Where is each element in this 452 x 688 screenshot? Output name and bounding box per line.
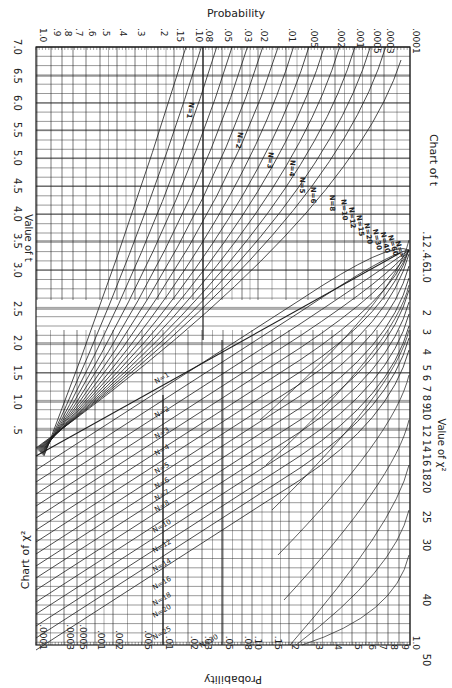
probability-tick-top: .01 (287, 28, 297, 42)
probability-tick-bottom: .8 (389, 641, 399, 650)
probability-tick-top: .05 (223, 28, 233, 42)
chi-value-tick: 1.0 (421, 267, 432, 283)
chi-value-tick: 6 (421, 375, 432, 381)
bottom-axis-title: Probability (203, 673, 262, 686)
t-value-tick: 4.5 (12, 178, 23, 194)
probability-tick-bottom: .3 (314, 641, 324, 650)
chi-value-tick: 30 (421, 539, 432, 552)
t-curve (43, 47, 201, 455)
chi-curve-label: N=14 (151, 557, 173, 574)
probability-tick-bottom: .15 (273, 636, 283, 650)
t-value-tick: .5 (12, 425, 23, 435)
chi-value-tick: 20 (421, 481, 432, 494)
probability-tick-top: .8 (63, 28, 73, 37)
probability-tick-top: .5 (101, 28, 111, 37)
t-value-tick: 3.5 (12, 233, 23, 249)
chi-value-tick: 25 (421, 511, 432, 524)
probability-tick-bottom: .7 (378, 641, 388, 650)
probability-tick-top: .15 (175, 28, 185, 42)
probability-tick-bottom: .01 (164, 636, 174, 650)
chi-value-tick: 16 (421, 454, 432, 467)
left-axis-title: Value of t (23, 214, 34, 261)
t-value-tick: 6.0 (12, 95, 23, 111)
probability-tick-top: .6 (87, 28, 97, 37)
chi-curve-upper (260, 240, 409, 420)
chi-value-tick: 7 (421, 386, 432, 392)
boundary-diagonal (36, 253, 400, 456)
probability-tick-bottom: .2 (290, 641, 300, 650)
chi-curve-label: N=6 (153, 476, 171, 491)
t-curve (42, 47, 232, 454)
probability-tick-top: .10 (194, 28, 204, 43)
chi-curve-upper (302, 555, 409, 645)
t-value-tick: 2.5 (12, 301, 23, 317)
t-curve (42, 47, 248, 454)
chi-value-tick: 4 (421, 349, 432, 355)
probability-tick-bottom: .005 (143, 630, 153, 650)
right-axis-title: Value of χ² (436, 418, 447, 471)
chi-value-tick: 3 (421, 329, 432, 335)
probability-tick-bottom: .9 (400, 641, 410, 650)
t-value-tick: 3.0 (12, 262, 23, 278)
chi-curve-label: N=2 (153, 405, 170, 420)
t-curve (36, 60, 401, 448)
probability-tick-bottom: .08 (243, 636, 253, 651)
probability-tick-bottom: .10 (253, 636, 263, 651)
probability-tick-bottom: .6 (367, 641, 377, 650)
t-value-tick: 2.0 (12, 335, 23, 351)
t-curve (39, 47, 324, 451)
t-curve-label: N=2 (234, 131, 244, 149)
t-curve (41, 47, 263, 453)
t-value-tick: 7.0 (12, 39, 23, 55)
probability-tick-top: .0003 (385, 28, 395, 54)
nomograph-chart: 1.01.0.9.9.8.8.7.7.6.6.5.5.4.4.3.3.2.2.1… (0, 0, 452, 688)
probability-tick-bottom: .5 (353, 641, 363, 650)
probability-tick-bottom: .4 (333, 641, 343, 650)
t-curve-label: N=6 (309, 187, 317, 204)
chi-value-tick: 18 (421, 468, 432, 481)
probability-tick-top: .4 (118, 28, 128, 37)
probability-tick-bottom: .002 (114, 630, 124, 650)
probability-tick-top: .08 (204, 28, 214, 43)
t-curve (37, 47, 370, 449)
chart-of-chi-title: Chart of χ² (19, 531, 32, 590)
probability-tick-top: .005 (309, 28, 319, 48)
t-curve-label: N=8 (328, 194, 337, 211)
chart-canvas: 1.01.0.9.9.8.8.7.7.6.6.5.5.4.4.3.3.2.2.1… (0, 0, 452, 688)
t-value-tick: 1.5 (12, 365, 23, 381)
chi-value-tick: 12 (421, 425, 432, 438)
chi-value-tick: 40 (421, 594, 432, 607)
t-curve-label: N=1 (185, 101, 196, 119)
probability-tick-top: .2 (159, 28, 169, 37)
probability-tick-top: 1.0 (38, 28, 48, 43)
t-value-tick: 5.5 (12, 122, 23, 138)
chi-curve-label: N=5 (153, 461, 170, 476)
t-value-tick: 5.0 (12, 150, 23, 166)
chart-of-t-title: Chart of t (427, 134, 440, 187)
probability-tick-top: .02 (259, 28, 269, 42)
probability-tick-bottom: .0003 (65, 624, 75, 650)
probability-tick-bottom: .0005 (78, 624, 88, 650)
probability-tick-bottom: .0001 (38, 624, 48, 650)
chi-curve-upper (290, 465, 409, 645)
chi-curve-upper (272, 330, 409, 510)
probability-tick-bottom: .001 (96, 630, 106, 650)
t-curve-label: N=5 (298, 177, 307, 194)
probability-tick-top: .001 (355, 28, 365, 48)
t-curve-label: N=4 (287, 160, 296, 177)
chi-value-tick: 50 (421, 654, 432, 667)
chi-value-tick: .2 (421, 238, 432, 248)
chi-value-tick: 5 (421, 365, 432, 371)
chi-value-tick: 8 (421, 395, 432, 401)
probability-tick-top: .03 (243, 28, 253, 42)
probability-tick-bottom: 1.0 (411, 636, 421, 651)
t-curve-label: N=3 (265, 152, 275, 169)
top-axis-title: Probability (207, 7, 266, 20)
chi-curve-label: N=10 (151, 518, 172, 535)
probability-tick-top: .0005 (372, 28, 382, 54)
probability-tick-top: .7 (74, 28, 84, 37)
probability-tick-top: .3 (136, 28, 146, 37)
probability-tick-bottom: .05 (224, 636, 234, 650)
t-value-tick: 1.0 (12, 394, 23, 410)
chi-value-tick: 2 (421, 310, 432, 316)
